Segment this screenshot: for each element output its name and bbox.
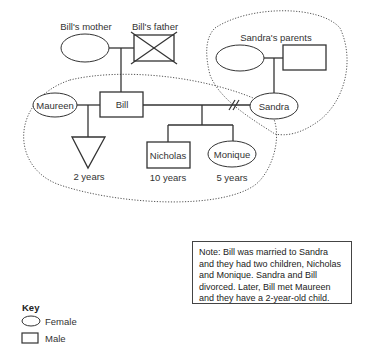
- key-label: Female: [45, 316, 77, 327]
- monique-age: 5 years: [216, 173, 247, 183]
- bills-father-label: Bill's father: [132, 22, 178, 32]
- sandras-mother-symbol: [216, 45, 264, 71]
- bills-mother-symbol: [61, 34, 109, 62]
- nicholas-label: Nicholas: [150, 151, 186, 161]
- bills-mother-label: Bill's mother: [60, 22, 111, 32]
- key-male-icon: [18, 331, 42, 345]
- note-box: Note: Bill was married to Sandra and the…: [192, 241, 352, 304]
- monique-label: Monique: [214, 150, 250, 160]
- unknown-child-age: 2 years: [73, 172, 104, 182]
- sandras-parents-label: Sandra's parents: [240, 33, 312, 43]
- key-label: Male: [45, 333, 66, 344]
- maureen-label: Maureen: [36, 101, 74, 111]
- key-title: Key: [22, 302, 39, 313]
- key-item-female: Female: [18, 314, 77, 328]
- sandra-label: Sandra: [259, 102, 290, 112]
- sandras-father-symbol: [283, 45, 326, 70]
- nicholas-age: 10 years: [150, 173, 186, 183]
- bill-label: Bill: [116, 100, 129, 110]
- key-item-male: Male: [18, 331, 66, 345]
- unknown-child-symbol: [72, 137, 105, 168]
